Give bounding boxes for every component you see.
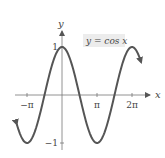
- x-axis-label: x: [155, 89, 161, 100]
- y-tick-label-neg1: −1: [45, 138, 58, 148]
- curve-annotation: y = cos x: [85, 36, 127, 46]
- x-tick-label-pi: π: [94, 100, 100, 110]
- x-tick-label-2pi: 2π: [126, 100, 138, 110]
- x-tick-label-neg-pi: −π: [20, 100, 34, 110]
- cosine-graph: −π π 2π 1 −1 x y y = cos x: [0, 0, 165, 158]
- y-axis-label: y: [57, 18, 64, 29]
